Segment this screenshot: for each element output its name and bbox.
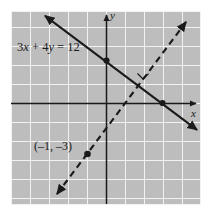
point-marker-neg1-neg3: [84, 151, 91, 158]
equation-equals: =: [54, 40, 67, 54]
point-marker-x-intercept: [159, 100, 165, 106]
y-axis-label: y: [110, 10, 115, 21]
right-angle-marker: [138, 74, 149, 80]
graph-figure: 3x + 4y = 12 (–1, –3) x y: [0, 0, 208, 215]
equation-plus: +: [29, 40, 42, 54]
point-marker-y-intercept: [103, 57, 109, 63]
equation-constant: 12: [67, 40, 80, 54]
x-axis-label: x: [191, 108, 196, 119]
plotted-lines: [0, 0, 208, 215]
point-coordinate-label: (–1, –3): [34, 140, 72, 152]
solid-line-3x-4y-12: [45, 16, 197, 130]
equation-label: 3x + 4y = 12: [17, 41, 80, 54]
